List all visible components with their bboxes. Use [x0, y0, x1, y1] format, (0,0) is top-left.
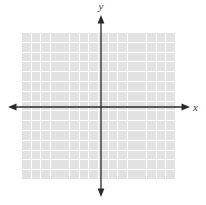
axes-overlay: x y: [0, 0, 206, 205]
y-axis-bottom-arrowhead: [98, 189, 105, 198]
x-axis-right-arrowhead: [182, 104, 191, 111]
x-axis-label: x: [192, 101, 198, 113]
y-axis-top-arrowhead: [98, 15, 105, 24]
coordinate-plane-figure: x y: [0, 0, 206, 205]
y-axis-label: y: [98, 0, 104, 12]
x-axis-left-arrowhead: [8, 104, 17, 111]
